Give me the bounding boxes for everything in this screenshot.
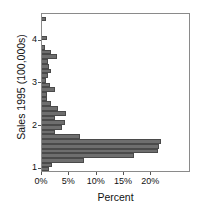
x-tick-label: 10% [87, 176, 105, 186]
x-tick-mark [150, 172, 151, 175]
histogram-bar [42, 17, 46, 22]
histogram-figure: Sales 1995 (100,000s) 1234 0%5%10%15%20%… [0, 0, 207, 212]
x-tick-mark [96, 172, 97, 175]
histogram-bar [42, 167, 49, 172]
y-tick-label: 1 [32, 163, 37, 172]
x-tick-label: 15% [114, 176, 132, 186]
histogram-bar [42, 36, 47, 41]
x-tick-label: 20% [141, 176, 159, 186]
y-tick-label: 3 [32, 78, 37, 87]
x-tick-mark [68, 172, 69, 175]
x-tick-mark [41, 172, 42, 175]
x-axis-title: Percent [41, 191, 190, 203]
y-tick-label: 2 [32, 121, 37, 130]
x-tick-label: 5% [62, 176, 75, 186]
x-tick-label: 0% [34, 176, 47, 186]
x-tick-mark [123, 172, 124, 175]
y-tick-label: 4 [32, 35, 37, 44]
plot-area [41, 13, 190, 172]
